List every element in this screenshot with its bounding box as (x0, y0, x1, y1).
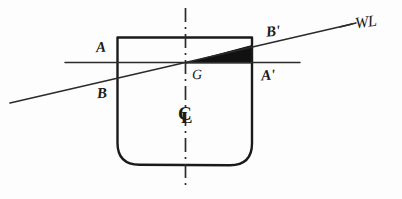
inclined-waterline-BB (10, 24, 352, 103)
centerline-l-glyph: L (181, 109, 192, 126)
label-point-a: A (95, 40, 106, 56)
label-waterline-wl: WL (354, 13, 377, 32)
label-point-b-prime: B' (265, 23, 281, 39)
centerline-glyph-stack: C L (178, 104, 194, 128)
diagram-canvas (0, 0, 402, 199)
hull-cross-section-figure: A B A' B' G WL C L (0, 0, 402, 199)
label-point-a-prime: A' (260, 67, 275, 83)
label-point-b: B (96, 86, 107, 102)
waterline-caption-leader (340, 23, 356, 27)
label-centerline-symbol: C L (178, 104, 194, 131)
label-centroid-g: G (192, 68, 203, 83)
